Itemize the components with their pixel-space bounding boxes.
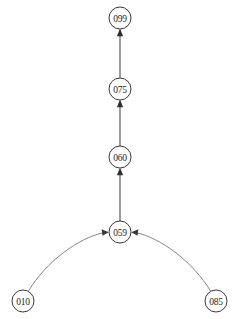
edge-085-to-059-path <box>136 233 211 291</box>
edge-010-to-059-arrowhead <box>102 229 109 235</box>
edge-075-to-099 <box>117 29 123 78</box>
edge-085-to-059 <box>131 229 210 291</box>
edge-010-to-059-path <box>29 233 105 291</box>
graph-canvas: 099 075 060 059 010 085 <box>0 0 238 319</box>
node-085[interactable]: 085 <box>205 290 227 312</box>
edge-060-to-075 <box>117 100 123 146</box>
edge-059-to-060-arrowhead <box>117 168 123 176</box>
edge-010-to-059 <box>29 229 109 291</box>
node-010-label: 010 <box>16 297 30 307</box>
edge-060-to-075-arrowhead <box>117 100 123 108</box>
node-060-label: 060 <box>113 153 127 163</box>
node-099[interactable]: 099 <box>109 7 131 29</box>
node-085-label: 085 <box>209 297 223 307</box>
edge-059-to-060 <box>117 168 123 221</box>
node-075[interactable]: 075 <box>109 78 131 100</box>
node-010[interactable]: 010 <box>12 290 34 312</box>
node-059-label: 059 <box>113 228 127 238</box>
node-060[interactable]: 060 <box>109 146 131 168</box>
edge-085-to-059-arrowhead <box>131 229 138 235</box>
node-099-label: 099 <box>113 14 127 24</box>
node-059[interactable]: 059 <box>109 221 131 243</box>
node-075-label: 075 <box>113 85 127 95</box>
edge-075-to-099-arrowhead <box>117 29 123 37</box>
